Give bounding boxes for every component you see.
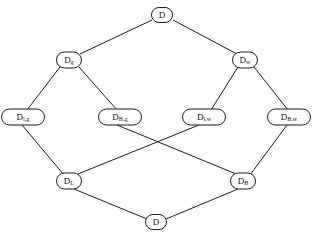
edge-dg-to-dbg <box>79 67 117 110</box>
node-label-bot: D <box>153 217 160 227</box>
node-group: DDgDwDl,gDB,gDl,wDB,wDLDBD <box>2 8 311 230</box>
edge-dl-to-bot <box>74 189 147 219</box>
edge-db-to-bot <box>166 189 238 219</box>
node-dlw[interactable]: Dl,w <box>183 109 226 125</box>
lattice-canvas: DDgDwDl,gDB,gDl,wDB,wDLDBD <box>0 0 313 238</box>
node-bot[interactable]: D <box>146 215 167 230</box>
lattice-diagram: DDgDwDl,gDB,gDl,wDB,wDLDBD <box>0 0 313 238</box>
node-db[interactable]: DB <box>231 173 256 189</box>
node-dg[interactable]: Dg <box>57 52 82 68</box>
edge-dlg-to-dl <box>22 125 64 175</box>
node-dl[interactable]: DL <box>57 173 82 189</box>
node-label-top: D <box>159 10 166 20</box>
node-dw[interactable]: Dw <box>233 52 258 68</box>
edge-dw-to-dbw <box>254 67 288 110</box>
edge-dbw-to-db <box>250 125 287 175</box>
edge-dg-to-dlg <box>27 67 60 110</box>
node-top[interactable]: D <box>152 8 173 23</box>
node-dlg[interactable]: Dl,g <box>2 109 45 125</box>
edge-dw-to-dlw <box>211 67 238 110</box>
edge-top-to-dg <box>80 20 152 54</box>
node-dbw[interactable]: DB,w <box>268 109 311 125</box>
edge-top-to-dw <box>173 20 237 54</box>
node-dbg[interactable]: DB,g <box>99 109 142 125</box>
